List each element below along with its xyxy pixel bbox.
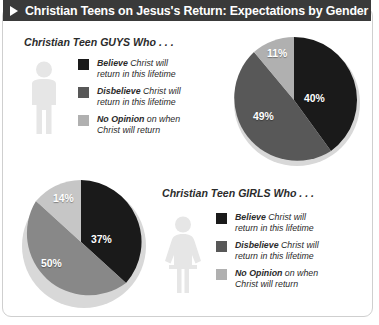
page-title: Christian Teens on Jesus's Return: Expec… bbox=[25, 4, 368, 18]
pie-label-believe: 40% bbox=[304, 93, 325, 104]
legend-label-believe: Believe Christ will return in this lifet… bbox=[97, 58, 176, 79]
legend-label-no-opinion: No Opinion on when Christ will return bbox=[235, 268, 318, 289]
legend-item: No Opinion on when Christ will return bbox=[216, 268, 319, 289]
legend-item: Believe Christ will return in this lifet… bbox=[216, 212, 319, 233]
pie-label-disbelieve: 50% bbox=[41, 258, 62, 269]
legend-item: Believe Christ will return in this lifet… bbox=[78, 58, 181, 79]
pie-label-no-opinion: 14% bbox=[53, 193, 74, 204]
legend-swatch-believe bbox=[216, 213, 227, 224]
legend-girls: Believe Christ will return in this lifet… bbox=[216, 212, 319, 297]
section-heading-girls: Christian Teen GIRLS Who . . . bbox=[162, 187, 314, 199]
pie-label-no-opinion: 11% bbox=[267, 48, 287, 59]
play-triangle-icon bbox=[10, 6, 18, 16]
panel-titlebar: Christian Teens on Jesus's Return: Expec… bbox=[3, 0, 371, 21]
legend-swatch-believe bbox=[78, 59, 89, 70]
male-figure-icon bbox=[23, 60, 65, 142]
legend-guys: Believe Christ will return in this lifet… bbox=[78, 58, 181, 143]
pie-chart-guys: 40% 49% 11% bbox=[228, 33, 362, 169]
legend-label-believe: Believe Christ will return in this lifet… bbox=[235, 212, 314, 233]
legend-label-no-opinion: No Opinion on when Christ will return bbox=[97, 114, 180, 135]
pie-chart-girls: 37% 50% 14% bbox=[16, 176, 150, 312]
legend-swatch-disbelieve bbox=[216, 241, 227, 252]
legend-label-disbelieve: Disbelieve Christ will return in this li… bbox=[235, 240, 319, 261]
legend-label-disbelieve: Disbelieve Christ will return in this li… bbox=[97, 86, 181, 107]
legend-item: Disbelieve Christ will return in this li… bbox=[78, 86, 181, 107]
legend-swatch-no-opinion bbox=[78, 115, 89, 126]
legend-item: Disbelieve Christ will return in this li… bbox=[216, 240, 319, 261]
legend-swatch-no-opinion bbox=[216, 269, 227, 280]
female-figure-icon bbox=[161, 215, 205, 301]
pie-label-disbelieve: 49% bbox=[253, 111, 274, 122]
pie-label-believe: 37% bbox=[91, 234, 112, 245]
infographic-panel: Christian Teens on Jesus's Return: Expec… bbox=[0, 0, 379, 325]
section-heading-guys: Christian Teen GUYS Who . . . bbox=[24, 36, 174, 48]
legend-swatch-disbelieve bbox=[78, 87, 89, 98]
legend-item: No Opinion on when Christ will return bbox=[78, 114, 181, 135]
